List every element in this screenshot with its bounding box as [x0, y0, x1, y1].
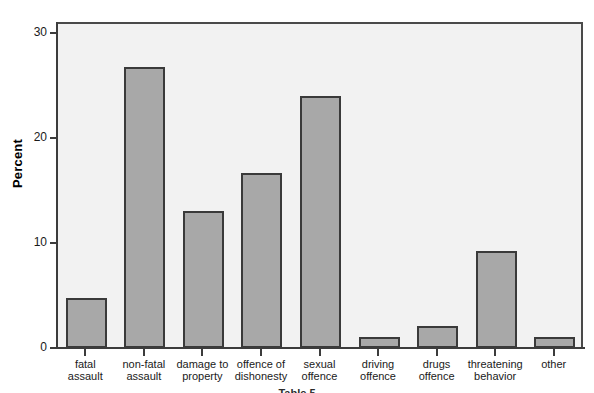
x-tick-label: threatening behavior	[466, 358, 525, 382]
plot-area	[56, 22, 583, 348]
x-tick-mark	[260, 349, 262, 356]
y-tick-mark	[50, 347, 56, 349]
x-tick-label: driving offence	[349, 358, 408, 382]
y-axis-tick: 30	[0, 33, 56, 34]
bar	[124, 67, 165, 348]
x-tick-label: sexual offence	[290, 358, 349, 382]
x-tick-label: fatal assault	[56, 358, 115, 382]
x-tick-mark	[494, 349, 496, 356]
x-tick-label: damage to property	[173, 358, 232, 382]
x-tick-mark	[201, 349, 203, 356]
x-tick-mark	[319, 349, 321, 356]
y-tick-mark	[50, 242, 56, 244]
y-axis-tick: 20	[0, 138, 56, 139]
y-axis-tick: 10	[0, 243, 56, 244]
y-tick-label: 0	[40, 340, 47, 354]
y-tick-mark	[50, 137, 56, 139]
x-tick-mark	[553, 349, 555, 356]
x-tick-mark	[143, 349, 145, 356]
y-axis-tick: 0	[0, 348, 56, 349]
bar	[66, 298, 107, 348]
bar	[417, 326, 458, 348]
y-tick-label: 30	[34, 25, 47, 39]
bar-chart: Percent 0102030 fatal assaultnon-fatal a…	[0, 0, 594, 393]
bar	[476, 251, 517, 348]
x-axis-line	[56, 347, 585, 349]
y-axis-line	[56, 22, 58, 349]
y-tick-label: 10	[34, 235, 47, 249]
x-tick-mark	[436, 349, 438, 356]
x-tick-label: drugs offence	[407, 358, 466, 382]
x-tick-label: non-fatal assault	[115, 358, 174, 382]
bottom-caption: Table 5	[0, 387, 594, 393]
y-tick-label: 20	[34, 130, 47, 144]
x-tick-label: other	[524, 358, 583, 370]
bar	[183, 211, 224, 348]
y-axis-title: Percent	[10, 124, 25, 204]
x-tick-label: offence of dishonesty	[232, 358, 291, 382]
bar	[300, 96, 341, 348]
bar	[241, 173, 282, 348]
x-tick-mark	[377, 349, 379, 356]
y-tick-mark	[50, 32, 56, 34]
bars-layer	[57, 24, 581, 348]
x-tick-mark	[84, 349, 86, 356]
